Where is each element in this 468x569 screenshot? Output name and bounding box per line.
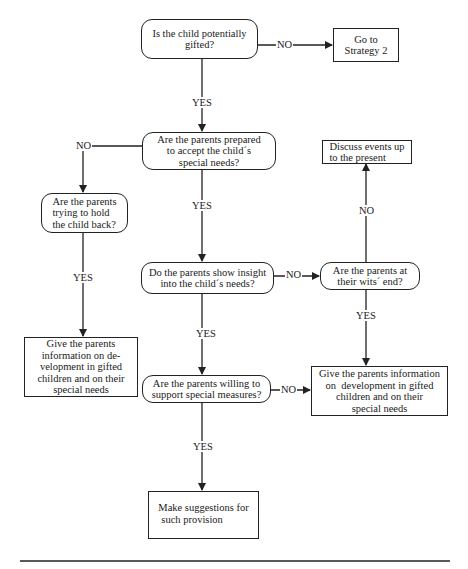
process-make-suggestions: Make suggestions forsuch provision bbox=[148, 491, 259, 539]
edge-label-q4-no: NO bbox=[285, 269, 302, 280]
decision-support-measures: Are the parents willing tosupport specia… bbox=[142, 375, 271, 403]
edge-label-q2-yes: YES bbox=[191, 200, 213, 211]
edge-label-q1-yes: YES bbox=[191, 97, 213, 108]
edge-label-q1-no: NO bbox=[276, 39, 293, 50]
edge-label-q5-no: NO bbox=[358, 205, 375, 216]
process-strategy-2: Go toStrategy 2 bbox=[333, 28, 399, 62]
decision-holding-back: Are the parentstrying to holdthe child b… bbox=[41, 193, 128, 233]
process-info-right: Give the parents informationon developme… bbox=[311, 366, 448, 416]
decision-show-insight: Do the parents show insightinto the chil… bbox=[141, 262, 274, 294]
edge-label-q6-yes: YES bbox=[192, 441, 214, 452]
decision-parents-prepared: Are the parents preparedto accept the ch… bbox=[142, 132, 276, 170]
process-discuss-events: Discuss events upto the present bbox=[322, 140, 412, 164]
edge-label-q4-yes: YES bbox=[195, 328, 217, 339]
decision-wits-end: Are the parents attheir wits´ end? bbox=[320, 262, 420, 290]
edge-label-q5-yes: YES bbox=[355, 310, 377, 321]
edge-label-q6-no: NO bbox=[280, 384, 297, 395]
decision-child-gifted: Is the child potentiallygifted? bbox=[141, 19, 258, 59]
edge-label-q2-no: NO bbox=[75, 140, 92, 151]
edge-label-q3-yes: YES bbox=[72, 272, 94, 283]
process-info-left: Give the parentsinformation on de-velopm… bbox=[24, 337, 138, 397]
